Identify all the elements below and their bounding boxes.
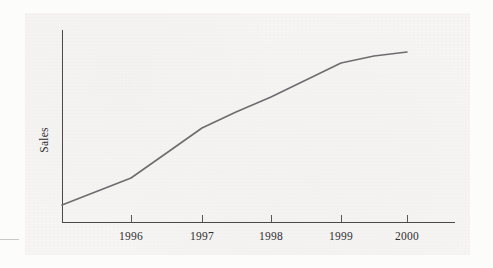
x-tick-label-1999: 1999 — [329, 230, 353, 242]
sales-line-chart: 1996 1997 1998 1999 2000 Sales — [0, 0, 493, 268]
x-tick-label-2000: 2000 — [395, 230, 419, 242]
figure-page: 1996 1997 1998 1999 2000 Sales — [0, 0, 493, 268]
x-tick-label-1998: 1998 — [259, 230, 283, 242]
x-axis-ticks — [132, 215, 408, 222]
x-tick-label-1997: 1997 — [190, 230, 214, 242]
y-axis-title: Sales — [38, 127, 50, 153]
sales-data-line — [62, 52, 407, 205]
x-tick-label-1996: 1996 — [119, 230, 143, 242]
x-axis-tick-labels: 1996 1997 1998 1999 2000 — [119, 230, 419, 242]
